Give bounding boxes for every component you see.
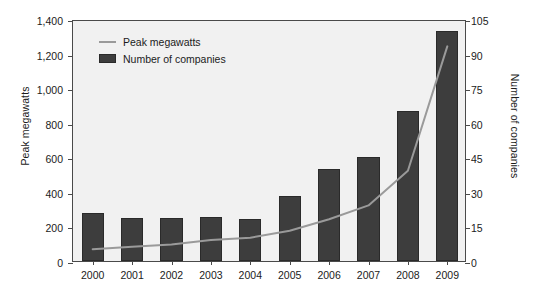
y-tick-label-right: 0 <box>471 258 517 269</box>
chart-figure: Peak megawatts Number of companies 02004… <box>0 0 541 293</box>
legend-item-peak-megawatts: Peak megawatts <box>99 33 226 50</box>
y-tick-label-left: 400 <box>17 189 63 200</box>
y-tick-label-left: 200 <box>17 223 63 234</box>
y-tick-left <box>68 263 73 264</box>
legend-label: Number of companies <box>123 53 226 65</box>
line-swatch-icon <box>99 41 116 43</box>
y-tick-label-left: 0 <box>17 258 63 269</box>
plot-area: 02004006008001,0001,2001,400 01530456075… <box>72 20 466 262</box>
y-tick-label-right: 45 <box>471 154 517 165</box>
y-tick-right <box>465 263 470 264</box>
y-tick-label-right: 105 <box>471 16 517 27</box>
chart-legend: Peak megawatts Number of companies <box>99 33 226 67</box>
x-tick-label: 2009 <box>417 269 477 281</box>
y-tick-label-left: 600 <box>17 154 63 165</box>
legend-label: Peak megawatts <box>123 36 201 48</box>
legend-item-number-of-companies: Number of companies <box>99 50 226 67</box>
bar-swatch-icon <box>99 54 116 63</box>
y-tick-label-left: 1,000 <box>17 85 63 96</box>
y-tick-label-right: 75 <box>471 85 517 96</box>
y-tick-label-right: 15 <box>471 223 517 234</box>
y-tick-label-right: 30 <box>471 189 517 200</box>
y-tick-label-left: 1,200 <box>17 51 63 62</box>
y-tick-label-right: 90 <box>471 51 517 62</box>
y-tick-label-right: 60 <box>471 120 517 131</box>
y-tick-label-left: 1,400 <box>17 16 63 27</box>
y-tick-label-left: 800 <box>17 120 63 131</box>
